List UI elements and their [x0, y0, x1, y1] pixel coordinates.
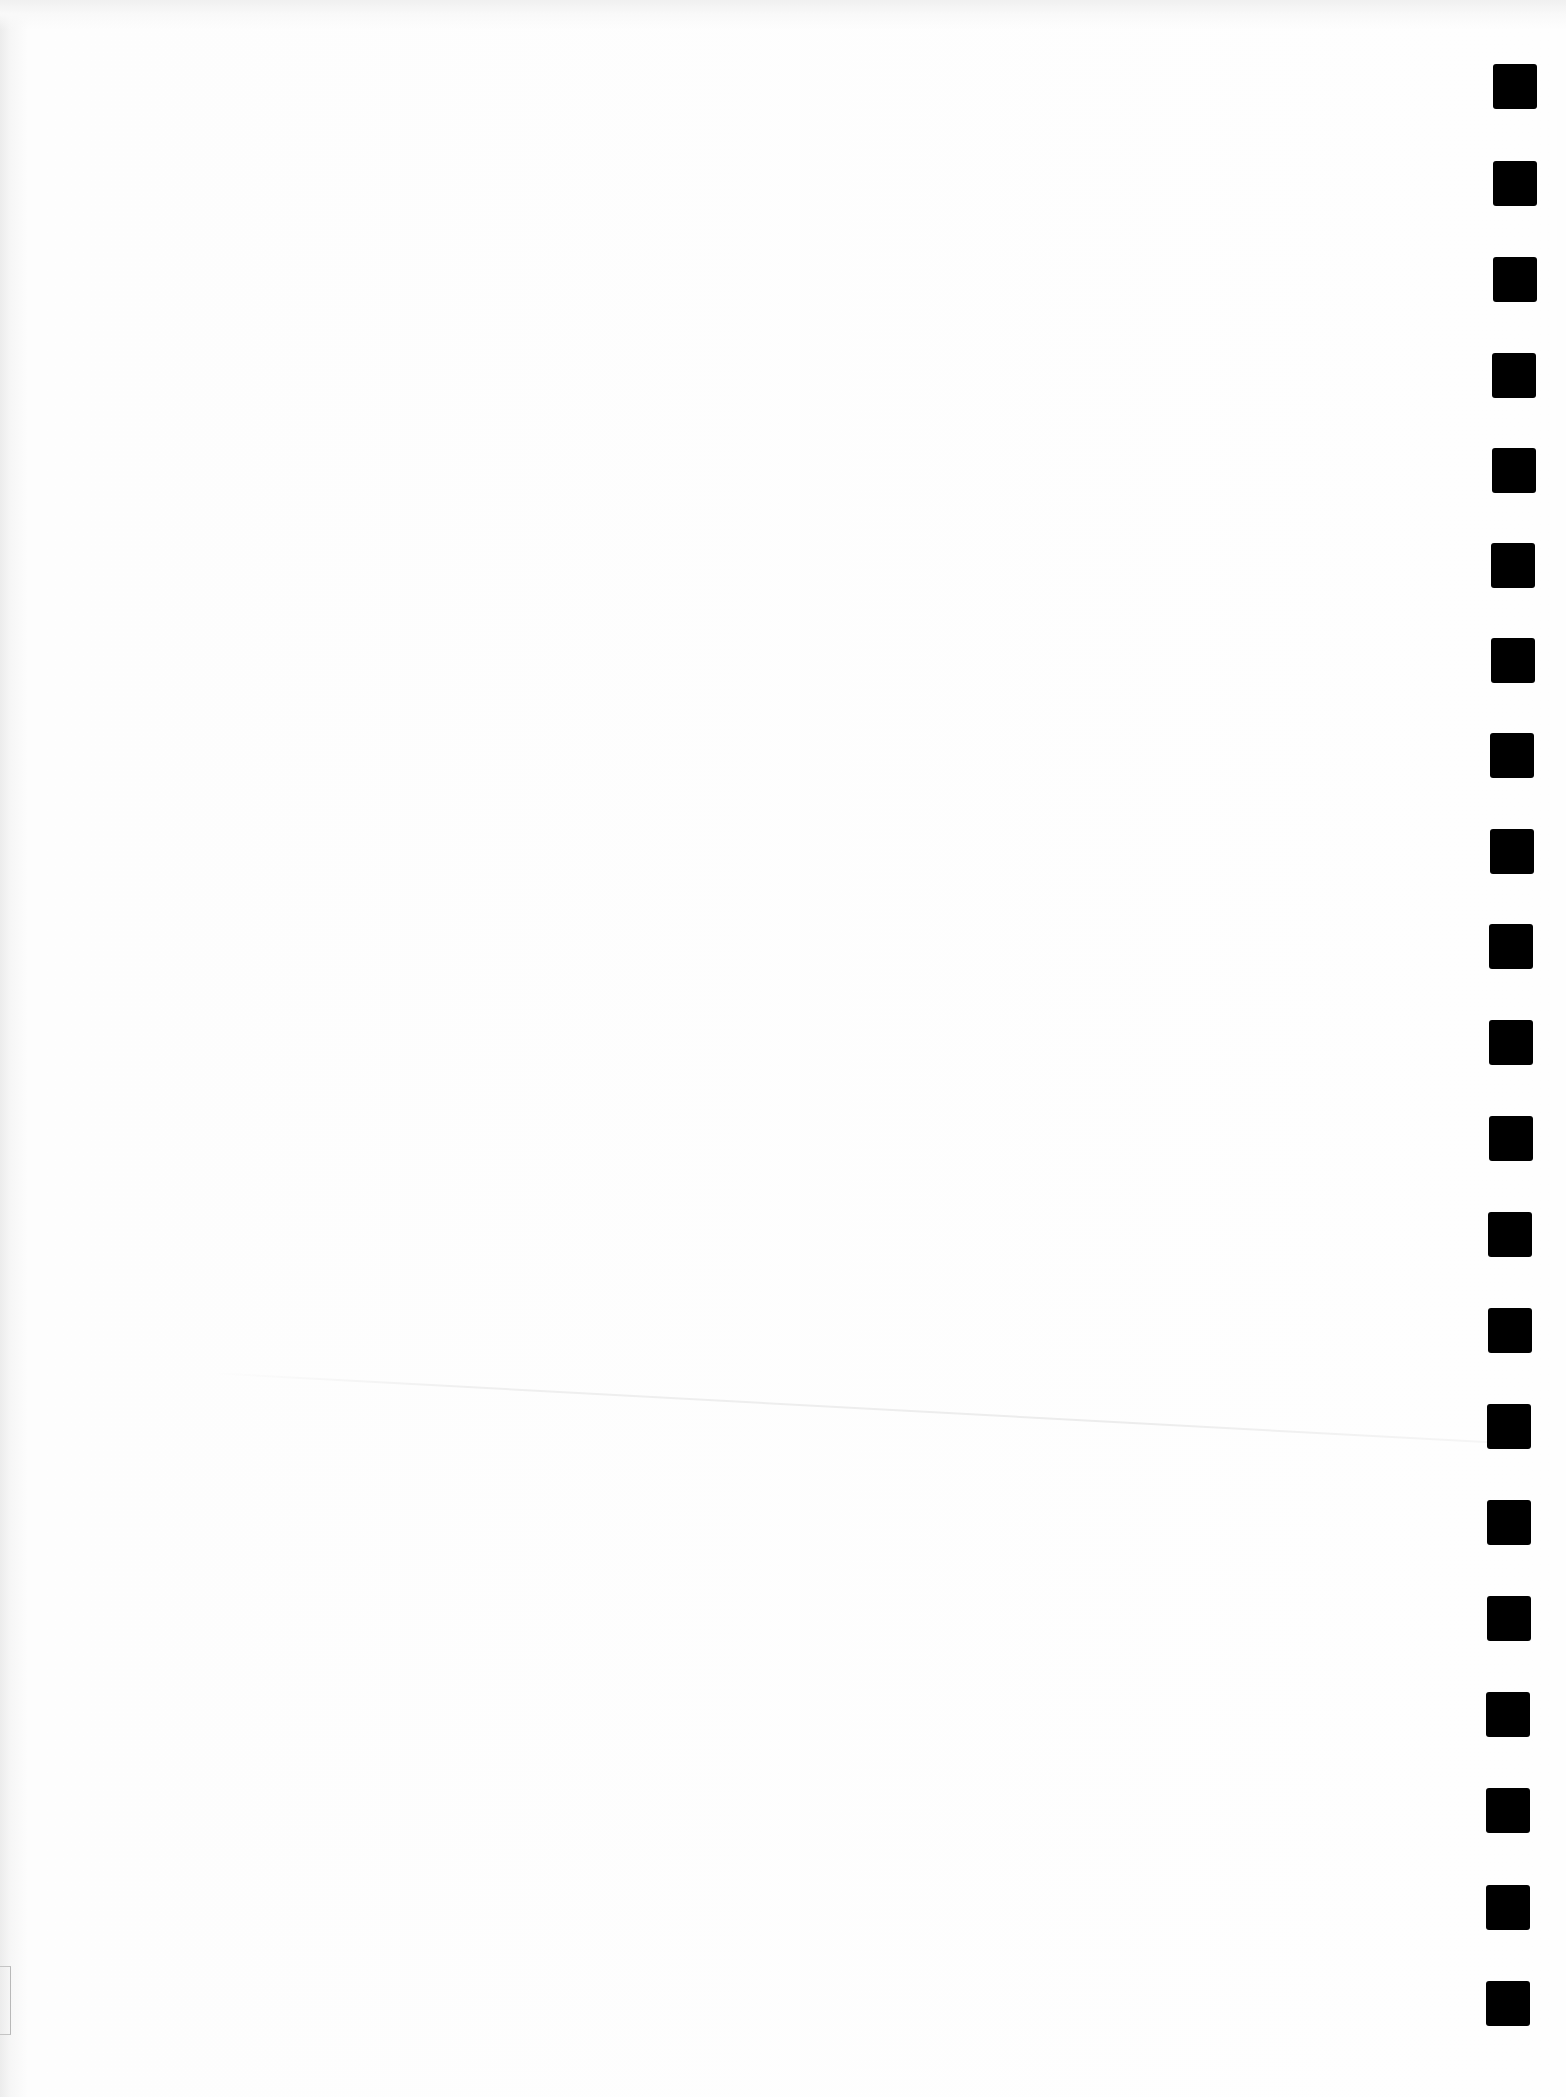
timing-mark	[1489, 1116, 1533, 1161]
timing-mark	[1490, 733, 1534, 778]
timing-mark	[1493, 64, 1537, 109]
timing-mark	[1490, 829, 1534, 874]
timing-mark	[1486, 1885, 1530, 1930]
timing-mark	[1493, 257, 1537, 302]
timing-mark-column	[0, 0, 1566, 2097]
timing-mark	[1487, 1500, 1531, 1545]
timing-mark	[1486, 1981, 1530, 2026]
timing-mark	[1489, 924, 1533, 969]
timing-mark	[1493, 161, 1537, 206]
timing-mark	[1488, 1212, 1532, 1257]
timing-mark	[1488, 1308, 1532, 1353]
timing-mark	[1486, 1692, 1530, 1737]
timing-mark	[1492, 353, 1536, 398]
timing-mark	[1491, 543, 1535, 588]
timing-mark	[1487, 1596, 1531, 1641]
timing-mark	[1491, 638, 1535, 683]
timing-mark	[1487, 1404, 1531, 1449]
timing-mark	[1489, 1020, 1533, 1065]
timing-mark	[1486, 1788, 1530, 1833]
timing-mark	[1492, 448, 1536, 493]
scanned-page	[0, 0, 1566, 2097]
